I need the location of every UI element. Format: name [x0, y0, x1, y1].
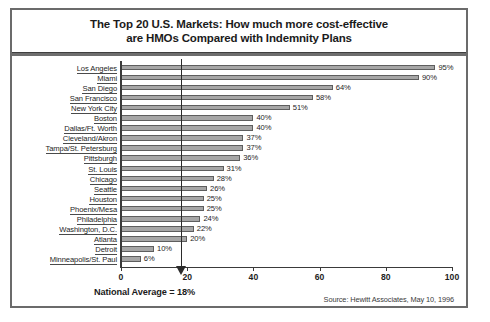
- bar-row: 40%: [121, 114, 451, 124]
- x-axis-tick: [452, 267, 453, 271]
- bar: [121, 206, 204, 212]
- bar: [121, 145, 243, 151]
- bar-row: 6%: [121, 255, 451, 265]
- x-axis-tick: [253, 267, 254, 271]
- national-average-label: National Average = 18%: [94, 287, 195, 297]
- bar-value-label: 90%: [422, 73, 437, 82]
- bar: [121, 226, 194, 232]
- y-axis-label: Tampa/St. Petersburg: [46, 144, 117, 154]
- y-axis-label: Miami: [97, 74, 117, 84]
- x-axis-line: [120, 267, 452, 268]
- y-axis-line: [120, 61, 122, 267]
- y-axis-label: Houston: [89, 195, 117, 205]
- bar-row: 90%: [121, 73, 451, 83]
- bar-row: 51%: [121, 103, 451, 113]
- chart-figure: The Top 20 U.S. Markets: How much more c…: [10, 8, 468, 308]
- chart-title: The Top 20 U.S. Markets: How much more c…: [12, 10, 466, 52]
- bar-value-label: 58%: [316, 93, 331, 102]
- y-axis-category-labels: Los AngelesMiamiSan DiegoSan FranciscoNe…: [12, 63, 119, 265]
- y-axis-label: Boston: [94, 114, 117, 124]
- y-axis-label: San Diego: [82, 84, 117, 94]
- bar: [121, 246, 154, 252]
- bar: [121, 115, 253, 121]
- bar-value-label: 40%: [256, 113, 271, 122]
- x-axis-tick: [320, 267, 321, 271]
- bar: [121, 75, 419, 81]
- bar-row: 37%: [121, 144, 451, 154]
- bar: [121, 166, 224, 172]
- bar: [121, 125, 253, 131]
- bar-row: 31%: [121, 164, 451, 174]
- bar-row: 28%: [121, 174, 451, 184]
- bar-row: 40%: [121, 124, 451, 134]
- bar-row: 25%: [121, 194, 451, 204]
- bar-value-label: 24%: [203, 214, 218, 223]
- x-axis-tick-label: 100: [445, 272, 459, 283]
- chart-title-line-2: are HMOs Compared with Indemnity Plans: [126, 31, 352, 45]
- bar-row: 37%: [121, 134, 451, 144]
- y-axis-label: Philadelphia: [77, 215, 117, 225]
- bar-row: 10%: [121, 245, 451, 255]
- y-axis-label: Chicago: [90, 175, 117, 185]
- bar: [121, 85, 333, 91]
- bar-value-label: 22%: [197, 224, 212, 233]
- bar-value-label: 20%: [190, 234, 205, 243]
- bar: [121, 186, 207, 192]
- bar-value-label: 37%: [246, 143, 261, 152]
- y-axis-label: Phoenix/Mesa: [70, 205, 117, 215]
- chart-title-line-1: The Top 20 U.S. Markets: How much more c…: [90, 17, 388, 31]
- bar: [121, 256, 141, 262]
- plot-area: Los AngelesMiamiSan DiegoSan FranciscoNe…: [12, 57, 466, 306]
- bar-value-label: 31%: [227, 164, 242, 173]
- bar-row: 20%: [121, 235, 451, 245]
- bar-value-label: 10%: [157, 244, 172, 253]
- bar-value-label: 51%: [293, 103, 308, 112]
- national-average-line: [181, 59, 182, 270]
- bar-row: 22%: [121, 225, 451, 235]
- x-axis-tick-label: 0: [119, 272, 124, 283]
- y-axis-label: Pittsburgh: [84, 154, 117, 164]
- national-average-arrow-icon: [176, 266, 186, 275]
- y-axis-label: Seattle: [94, 185, 117, 195]
- y-axis-label: Detroit: [95, 245, 117, 255]
- bar-value-label: 40%: [256, 123, 271, 132]
- bar-value-label: 36%: [243, 153, 258, 162]
- bar-row: 64%: [121, 83, 451, 93]
- x-axis-tick: [386, 267, 387, 271]
- source-note: Source: Hewitt Associates, May 10, 1996: [324, 295, 454, 304]
- bar-value-label: 25%: [207, 194, 222, 203]
- bar-value-label: 25%: [207, 204, 222, 213]
- title-divider: [12, 52, 466, 56]
- bar-row: 95%: [121, 63, 451, 73]
- x-axis-tick: [187, 267, 188, 271]
- x-axis-tick-label: 80: [381, 272, 391, 283]
- y-axis-label: New York City: [71, 104, 117, 114]
- x-axis-tick-label: 40: [249, 272, 259, 283]
- bar: [121, 95, 313, 101]
- bar: [121, 216, 200, 222]
- bar: [121, 65, 435, 71]
- bar: [121, 236, 187, 242]
- bar-value-label: 26%: [210, 184, 225, 193]
- y-axis-label: St. Louis: [88, 165, 117, 175]
- bar: [121, 196, 204, 202]
- bar-row: 36%: [121, 154, 451, 164]
- y-axis-label: Dallas/Ft. Worth: [64, 124, 117, 134]
- bar-value-label: 37%: [246, 133, 261, 142]
- bar-row: 26%: [121, 184, 451, 194]
- bar: [121, 135, 243, 141]
- x-axis-tick: [121, 267, 122, 271]
- bar: [121, 105, 290, 111]
- x-axis-tick-label: 60: [315, 272, 325, 283]
- y-axis-label: Minneapolis/St. Paul: [50, 255, 117, 265]
- bar-row: 24%: [121, 215, 451, 225]
- bar: [121, 176, 214, 182]
- y-axis-label: Washington, D.C.: [59, 225, 117, 235]
- bar-series: 95%90%64%58%51%40%40%37%37%36%31%28%26%2…: [121, 63, 451, 265]
- bar-value-label: 64%: [336, 83, 351, 92]
- y-axis-label: Los Angeles: [77, 64, 117, 74]
- bar-value-label: 95%: [438, 63, 453, 72]
- y-axis-label: San Francisco: [70, 94, 117, 104]
- bar-value-label: 6%: [144, 254, 155, 263]
- y-axis-label: Cleveland/Akron: [63, 134, 117, 144]
